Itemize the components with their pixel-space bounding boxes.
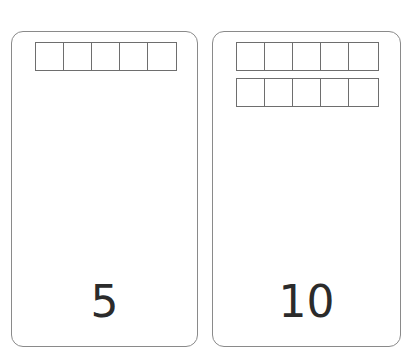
frame-cell: [321, 79, 349, 106]
frame-cell: [237, 43, 265, 70]
frame-cell: [120, 43, 148, 70]
number-card-10: 10: [212, 31, 401, 347]
frame-cell: [64, 43, 92, 70]
five-frame: [35, 42, 177, 71]
card-number: 5: [12, 280, 197, 324]
card-number: 10: [213, 280, 400, 324]
frame-cell: [92, 43, 120, 70]
frame-cell: [237, 79, 265, 106]
frame-cell: [349, 43, 377, 70]
ten-frame-row-1: [236, 42, 379, 71]
frame-cell: [321, 43, 349, 70]
frame-cell: [293, 43, 321, 70]
frame-cell: [293, 79, 321, 106]
frame-cell: [265, 43, 293, 70]
frame-cell: [148, 43, 176, 70]
number-card-5: 5: [11, 31, 198, 347]
ten-frame-row-2: [236, 78, 379, 107]
frame-cell: [349, 79, 377, 106]
frame-cell: [265, 79, 293, 106]
frame-cell: [36, 43, 64, 70]
